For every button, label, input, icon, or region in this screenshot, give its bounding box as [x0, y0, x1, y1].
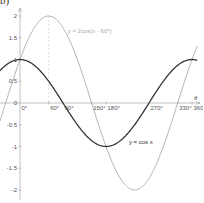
curve-label: y = cos x	[129, 139, 153, 145]
x-tick-label: 180°	[108, 105, 121, 111]
x-tick-label: 90°	[65, 105, 75, 111]
x-tick-label: 270°	[151, 105, 164, 111]
y-tick-label: 1.5	[9, 35, 18, 41]
y-tick-label: 0.5	[9, 78, 18, 84]
trig-graph: 0°60°90°150°180°270°330°360°21.510.50-0.…	[0, 0, 203, 203]
axes	[0, 8, 200, 200]
x-tick-label: 0°	[22, 105, 28, 111]
x-tick-label: 60°	[50, 105, 60, 111]
x-tick-label: 330°	[179, 105, 192, 111]
x-tick-label: 150°	[93, 105, 106, 111]
y-tick-label: -1.5	[7, 165, 18, 171]
x-tick-label: 360°	[194, 105, 204, 111]
curve-label: y = 2cos(x - 60°)	[68, 28, 112, 34]
y-tick-label: -2	[12, 187, 18, 193]
y-tick-label: -0.5	[7, 122, 18, 128]
y-tick-label: -1	[12, 144, 18, 150]
y-tick-label: 2	[14, 13, 18, 19]
x-axis-label: θ	[194, 95, 198, 101]
